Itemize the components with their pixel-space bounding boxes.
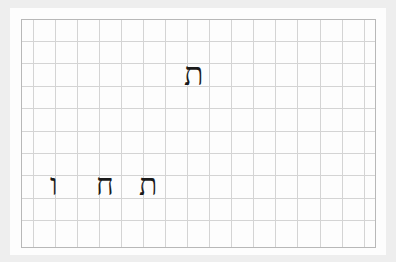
letter-het: ח [96,170,114,200]
letter-tav-bottom: ת [139,170,157,200]
letter-tav-top: ת [184,58,204,90]
grid-paper [0,0,396,262]
letter-vav: ו [50,170,58,200]
